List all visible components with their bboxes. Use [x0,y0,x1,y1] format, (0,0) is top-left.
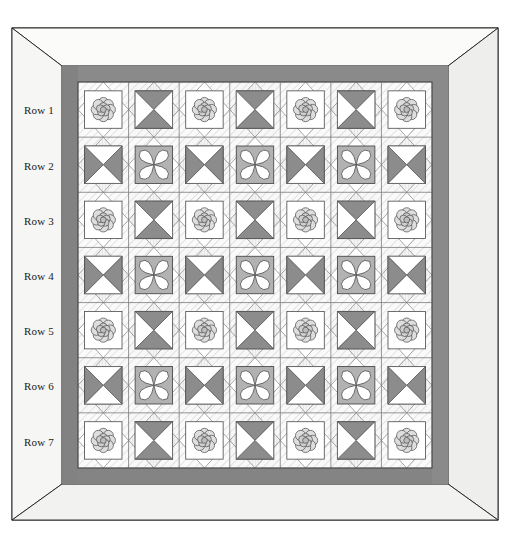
quilt-block-r3-c5[interactable] [287,201,324,238]
rose-motif [395,208,419,232]
rose-center [202,217,208,223]
rose-motif [91,318,115,342]
row-label-6: Row 6 [24,380,54,392]
rose-motif [91,97,115,121]
rose-center [404,438,410,444]
quilt-block-r7-c6[interactable] [337,422,374,459]
rose-motif [192,208,216,232]
rose-motif [293,208,317,232]
quilt-block-r3-c3[interactable] [186,201,223,238]
quilt-block-r1-c5[interactable] [287,91,324,128]
rose-motif [293,428,317,452]
quilt-block-r5-c1[interactable] [85,311,122,348]
quilt-block-r3-c4[interactable] [236,201,273,238]
rose-center [303,327,309,333]
quilt-block-r6-c5[interactable] [287,367,324,404]
quilt-block-r2-c6[interactable] [337,146,374,183]
quilt-illustration [0,0,510,534]
row-label-1: Row 1 [24,104,54,116]
quilt-block-r2-c5[interactable] [287,146,324,183]
quilt-block-r7-c7[interactable] [388,422,425,459]
quilt-block-r6-c2[interactable] [135,367,172,404]
rose-motif [91,428,115,452]
quilt-block-r3-c7[interactable] [388,201,425,238]
rose-center [404,107,410,113]
quilt-block-r2-c2[interactable] [135,146,172,183]
quilt-block-r1-c1[interactable] [85,91,122,128]
quilt-block-r4-c2[interactable] [135,256,172,293]
quilt-block-r2-c3[interactable] [186,146,223,183]
rose-center [202,327,208,333]
quilt-block-r6-c6[interactable] [337,367,374,404]
quilt-block-r7-c1[interactable] [85,422,122,459]
rose-center [100,217,106,223]
quilt-block-field [53,54,458,495]
quilt-block-r5-c3[interactable] [186,311,223,348]
quilt-diagram: Row 1Row 2Row 3Row 4Row 5Row 6Row 7 [0,0,510,534]
quilt-block-r4-c3[interactable] [186,256,223,293]
rose-center [303,438,309,444]
rose-center [404,327,410,333]
rose-center [100,438,106,444]
quilt-block-r7-c5[interactable] [287,422,324,459]
row-label-3: Row 3 [24,215,54,227]
quilt-block-r4-c1[interactable] [85,256,122,293]
rose-motif [293,318,317,342]
rose-center [303,107,309,113]
row-label-2: Row 2 [24,160,54,172]
quilt-block-r4-c6[interactable] [337,256,374,293]
quilt-block-r6-c3[interactable] [186,367,223,404]
quilt-block-r1-c2[interactable] [135,91,172,128]
quilt-block-r2-c4[interactable] [236,146,273,183]
quilt-block-r7-c3[interactable] [186,422,223,459]
rose-motif [192,97,216,121]
quilt-block-r3-c2[interactable] [135,201,172,238]
rose-center [404,217,410,223]
quilt-block-r6-c1[interactable] [85,367,122,404]
row-label-7: Row 7 [24,436,54,448]
quilt-block-r4-c4[interactable] [236,256,273,293]
rose-motif [395,428,419,452]
row-label-5: Row 5 [24,325,54,337]
rose-center [100,327,106,333]
quilt-block-r3-c6[interactable] [337,201,374,238]
rose-motif [192,428,216,452]
rose-motif [192,318,216,342]
quilt-block-r4-c7[interactable] [388,256,425,293]
quilt-block-r1-c7[interactable] [388,91,425,128]
quilt-block-r2-c7[interactable] [388,146,425,183]
quilt-block-r7-c4[interactable] [236,422,273,459]
quilt-block-r5-c5[interactable] [287,311,324,348]
quilt-block-r4-c5[interactable] [287,256,324,293]
quilt-block-r5-c4[interactable] [236,311,273,348]
quilt-block-r2-c1[interactable] [85,146,122,183]
quilt-block-r1-c3[interactable] [186,91,223,128]
quilt-block-r5-c6[interactable] [337,311,374,348]
rose-center [202,438,208,444]
quilt-block-r5-c2[interactable] [135,311,172,348]
quilt-block-r1-c6[interactable] [337,91,374,128]
rose-motif [293,97,317,121]
quilt-block-r5-c7[interactable] [388,311,425,348]
quilt-block-r3-c1[interactable] [85,201,122,238]
quilt-block-r6-c4[interactable] [236,367,273,404]
quilt-block-r7-c2[interactable] [135,422,172,459]
rose-center [100,107,106,113]
rose-motif [395,97,419,121]
rose-center [202,107,208,113]
quilt-block-r6-c7[interactable] [388,367,425,404]
rose-motif [91,208,115,232]
rose-center [303,217,309,223]
row-label-4: Row 4 [24,270,54,282]
rose-motif [395,318,419,342]
quilt-block-r1-c4[interactable] [236,91,273,128]
